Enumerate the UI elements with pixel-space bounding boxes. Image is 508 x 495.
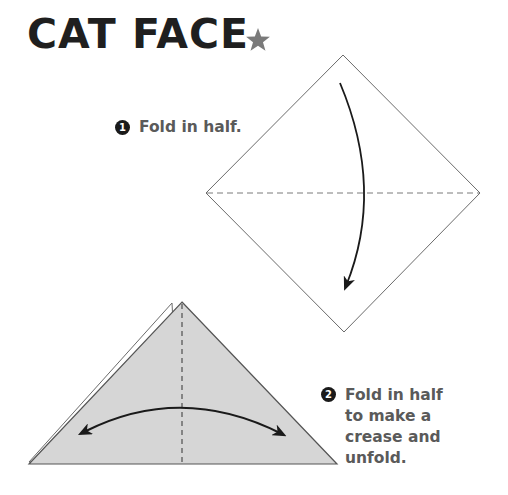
step-1-diagram	[206, 55, 480, 332]
paper-triangle	[29, 302, 337, 464]
fold-diagrams	[0, 0, 508, 495]
step-2-diagram	[29, 302, 337, 464]
